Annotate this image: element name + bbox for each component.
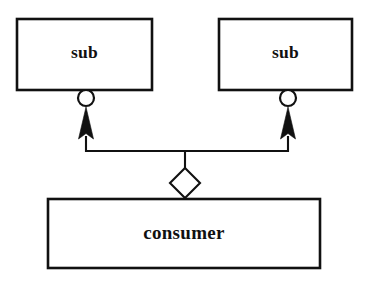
sub-left-label: sub [71, 42, 98, 62]
socket-circle-right-icon [280, 90, 296, 106]
arrowhead-left-icon [79, 107, 94, 139]
sub-right-label: sub [272, 42, 299, 62]
aggregation-diamond [170, 168, 200, 198]
node-sub-left[interactable]: sub [17, 19, 152, 90]
node-sub-right[interactable]: sub [219, 19, 352, 90]
diagram-svg: sub sub consumer [0, 0, 370, 284]
interface-connector-left [78, 90, 94, 139]
interface-connector-right [280, 90, 296, 139]
bus-bracket-line [86, 136, 288, 151]
aggregation-diamond-icon [170, 168, 200, 198]
node-consumer[interactable]: consumer [48, 199, 320, 268]
uml-diagram-canvas: sub sub consumer [0, 0, 370, 284]
socket-circle-left-icon [78, 90, 94, 106]
arrowhead-right-icon [281, 107, 296, 139]
consumer-label: consumer [143, 222, 225, 243]
